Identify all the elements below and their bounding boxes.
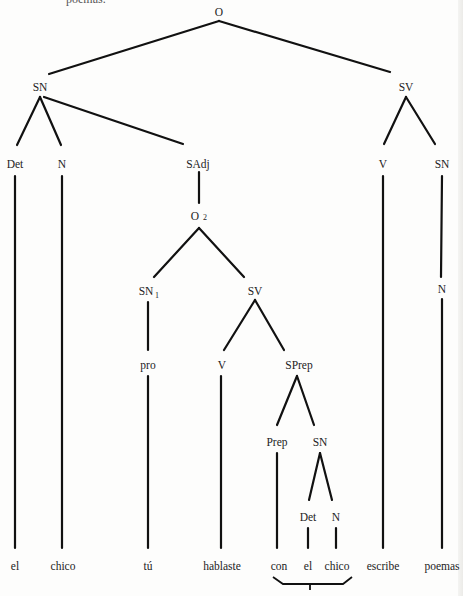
- node-o2: O 2: [191, 210, 207, 222]
- leaf-el: el: [11, 560, 19, 572]
- edge-sv-v: [384, 97, 406, 144]
- edge-sv-v-inner: [224, 300, 255, 350]
- tree-canvas: poemas.: [0, 0, 463, 596]
- edge-o-sn: [49, 21, 219, 74]
- leaf-tu: tú: [144, 560, 153, 572]
- node-det2: Det: [300, 511, 317, 523]
- node-sn1: SN 1: [139, 285, 159, 300]
- node-v-inner: V: [218, 359, 227, 371]
- node-sn: SN: [33, 81, 48, 93]
- leaf-escribe: escribe: [367, 560, 400, 572]
- node-prep: Prep: [266, 436, 287, 449]
- svg-text:O: O: [191, 210, 199, 222]
- node-sv: SV: [399, 81, 414, 93]
- node-sn-obj: SN: [435, 158, 450, 170]
- edge-sn-n-obj: [441, 176, 442, 277]
- svg-text:2: 2: [203, 213, 207, 222]
- leaf-chico: chico: [51, 560, 76, 572]
- node-n: N: [58, 158, 67, 170]
- syntax-tree-diagram: poemas.: [0, 0, 463, 596]
- svg-text:1: 1: [155, 291, 159, 300]
- node-sv-inner: SV: [248, 285, 263, 297]
- leaf-hablaste: hablaste: [203, 560, 241, 572]
- tree-edges: [15, 21, 442, 548]
- node-sprep: SPrep: [285, 359, 313, 372]
- node-n-obj: N: [438, 283, 447, 295]
- edge-o-sv: [219, 21, 390, 72]
- top-text-fragment: poemas.: [66, 0, 106, 6]
- tree-leaves: el chico tú hablaste con el chico escrib…: [11, 560, 460, 573]
- node-sn-pp: SN: [313, 436, 328, 448]
- edge-sv-sprep: [255, 300, 284, 350]
- leaf-con: con: [271, 560, 288, 572]
- edge-sv-sn: [406, 97, 435, 144]
- constituent-bracket: [273, 577, 352, 590]
- edge-sn-n: [40, 97, 61, 145]
- node-o: O: [215, 6, 223, 18]
- node-det: Det: [7, 158, 24, 170]
- node-n2: N: [332, 511, 341, 523]
- edge-sn-sadj: [44, 97, 183, 144]
- svg-text:SN: SN: [139, 285, 154, 297]
- edge-sprep-prep: [277, 376, 297, 425]
- edge-sn-det2: [309, 453, 320, 500]
- node-v: V: [379, 158, 388, 170]
- edge-sprep-sn: [297, 376, 314, 425]
- leaf-chico-2: chico: [325, 560, 350, 572]
- edge-sn-n2: [320, 453, 332, 500]
- leaf-poemas: poemas: [424, 560, 460, 573]
- leaf-el-2: el: [304, 560, 312, 572]
- node-pro: pro: [140, 359, 156, 372]
- node-sadj: SAdj: [186, 158, 210, 171]
- edge-sn-det: [17, 97, 40, 145]
- edge-o2-sv: [199, 228, 244, 277]
- edge-o2-sn1: [154, 228, 199, 277]
